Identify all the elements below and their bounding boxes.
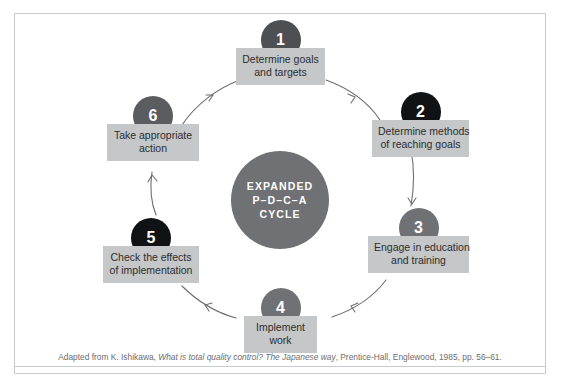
caption-source-title: What is total quality control? The Japan… — [158, 352, 335, 362]
expanded-pdca-cycle-hub: EXPANDED P–D–C–A CYCLE — [231, 151, 329, 249]
node-6-label-line-1: Take appropriate — [113, 129, 193, 142]
node-2-label-line-2: of reaching goals — [378, 138, 463, 151]
hub-line-3: CYCLE — [259, 207, 300, 221]
node-3-label-line-2: and training — [374, 254, 463, 267]
node-6-label-box: Take appropriate action — [107, 124, 199, 161]
node-3-label-box: Engage in education and training — [368, 236, 469, 273]
node-3-label-line-1: Engage in education — [374, 241, 463, 254]
arrow-head-1-to-2 — [348, 94, 355, 103]
arrow-path-3-to-4 — [332, 280, 386, 317]
node-2-label-box: Determine methods of reaching goals — [372, 120, 469, 157]
node-5-label-line-2: of implementation — [109, 264, 193, 277]
pdca-cycle-figure: EXPANDED P–D–C–A CYCLE 1 Determine goals… — [0, 0, 561, 388]
node-4-label-line-1: Implement — [250, 321, 311, 334]
hub-line-2: P–D–C–A — [253, 193, 308, 207]
node-5-label-box: Check the effects of implementation — [103, 246, 199, 283]
caption-prefix: Adapted from K. Ishikawa, — [58, 352, 158, 362]
arrow-path-6-to-1 — [182, 80, 240, 125]
node-2-label-line-1: Determine methods — [378, 125, 463, 138]
caption-divider — [15, 366, 545, 367]
node-4-label-box: Implement work — [244, 316, 317, 353]
node-4-label-line-2: work — [250, 334, 311, 347]
hub-line-1: EXPANDED — [247, 179, 313, 193]
arrow-path-2-to-3 — [411, 150, 414, 206]
node-6-label-line-2: action — [113, 142, 193, 155]
arrow-head-5-to-6 — [148, 175, 157, 182]
figure-caption: Adapted from K. Ishikawa, What is total … — [16, 352, 544, 363]
caption-suffix: , Prentice-Hall, Englewood, 1985, pp. 56… — [336, 352, 502, 362]
arrow-path-4-to-5 — [182, 286, 236, 318]
node-1-label-line-1: Determine goals — [242, 53, 319, 66]
node-5-label-line-1: Check the effects — [109, 251, 193, 264]
node-1-label-box: Determine goals and targets — [236, 48, 325, 85]
node-1-label-line-2: and targets — [242, 66, 319, 79]
